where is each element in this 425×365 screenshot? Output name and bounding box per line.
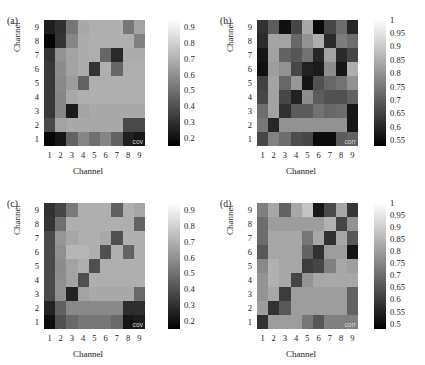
heatmap-cell xyxy=(100,90,111,104)
heatmap-cell xyxy=(78,20,89,34)
heatmap-cell xyxy=(89,34,100,48)
ytick-label: 5 xyxy=(240,261,252,271)
heatmap-cell xyxy=(257,245,268,259)
heatmap-cell xyxy=(302,315,313,329)
figure-heatmap-grid: (a) Channel cov 987654321 123456789 Chan… xyxy=(0,0,425,365)
heatmap-cell xyxy=(123,245,134,259)
heatmap-cell xyxy=(66,301,77,315)
heatmap-cell xyxy=(257,76,268,90)
xtick-label: 5 xyxy=(88,333,100,343)
heatmap-cell xyxy=(324,287,335,301)
xtick-label: 7 xyxy=(111,150,123,160)
heatmap-cell xyxy=(100,76,111,90)
xtick-label: 6 xyxy=(313,150,325,160)
heatmap-cell xyxy=(291,273,302,287)
heatmap-cell xyxy=(123,273,134,287)
ytick-label: 8 xyxy=(240,219,252,229)
ytick-label: 2 xyxy=(240,303,252,313)
heatmap-cell xyxy=(257,20,268,34)
heatmap-cell xyxy=(347,104,358,118)
heatmap-cell xyxy=(257,273,268,287)
heatmap-cell xyxy=(100,217,111,231)
heatmap-cell xyxy=(111,231,122,245)
heatmap-cell xyxy=(78,301,89,315)
heatmap-cell xyxy=(66,287,77,301)
heatmap-cell xyxy=(66,48,77,62)
heatmap-cell xyxy=(55,34,66,48)
heatmap-cell xyxy=(89,104,100,118)
heatmap-cell xyxy=(55,62,66,76)
heatmap-cell xyxy=(257,62,268,76)
heatmap-cell xyxy=(134,287,145,301)
colorbar-tick-label: 0.7 xyxy=(184,54,195,64)
panel-b-ylabel: Channel xyxy=(225,22,235,52)
heatmap-cell xyxy=(100,287,111,301)
ytick-label: 7 xyxy=(27,233,39,243)
heatmap-cell xyxy=(123,76,134,90)
heatmap-cell xyxy=(134,104,145,118)
heatmap-cell xyxy=(313,301,324,315)
heatmap-cell xyxy=(78,231,89,245)
colorbar-tick-label: 0.65 xyxy=(390,282,405,292)
heatmap-cell xyxy=(66,245,77,259)
colorbar-tick-label: 0.55 xyxy=(390,307,405,317)
heatmap-cell xyxy=(336,245,347,259)
heatmap-cell xyxy=(55,287,66,301)
heatmap-cell xyxy=(291,203,302,217)
heatmap-cell xyxy=(291,118,302,132)
heatmap-cell xyxy=(324,217,335,231)
heatmap-cell xyxy=(66,34,77,48)
heatmap-cell xyxy=(123,48,134,62)
heatmap-cell xyxy=(123,203,134,217)
heatmap-cell xyxy=(268,118,279,132)
colorbar-tick-label: 0.6 xyxy=(184,70,195,80)
heatmap-cell xyxy=(324,245,335,259)
heatmap-cell xyxy=(313,217,324,231)
heatmap-cell xyxy=(89,132,100,146)
heatmap-cell xyxy=(55,315,66,329)
heatmap-cell xyxy=(313,315,324,329)
heatmap-cell xyxy=(111,273,122,287)
heatmap-cell xyxy=(111,217,122,231)
xtick-label: 2 xyxy=(268,333,280,343)
heatmap-cell xyxy=(134,245,145,259)
ytick-label: 6 xyxy=(240,64,252,74)
heatmap-cell xyxy=(291,231,302,245)
heatmap-cell xyxy=(134,259,145,273)
heatmap-cell xyxy=(268,104,279,118)
heatmap-cell xyxy=(268,231,279,245)
heatmap-cell xyxy=(279,301,290,315)
panel-d-plot: corr xyxy=(257,203,358,329)
panel-b: (b) Channel corr 987654321 123456789 Cha… xyxy=(213,0,425,182)
xtick-label: 3 xyxy=(66,333,78,343)
ytick-label: 9 xyxy=(240,205,252,215)
colorbar-tick-label: 0.4 xyxy=(184,284,195,294)
heatmap-cell xyxy=(257,48,268,62)
heatmap-cell xyxy=(66,20,77,34)
heatmap-cell xyxy=(347,259,358,273)
heatmap-cell xyxy=(302,217,313,231)
ytick-label: 1 xyxy=(27,317,39,327)
colorbar-tick-label: 1 xyxy=(390,198,394,208)
xtick-label: 4 xyxy=(77,333,89,343)
heatmap-cell xyxy=(302,48,313,62)
heatmap-cell xyxy=(123,231,134,245)
heatmap-cell xyxy=(78,62,89,76)
heatmap-cell xyxy=(111,132,122,146)
panel-c-xlabel: Channel xyxy=(73,349,103,359)
heatmap-cell xyxy=(55,20,66,34)
ytick-label: 8 xyxy=(27,219,39,229)
colorbar-tick-label: 0.8 xyxy=(184,221,195,231)
heatmap-cell xyxy=(291,287,302,301)
heatmap-cell xyxy=(123,104,134,118)
heatmap-cell xyxy=(78,132,89,146)
heatmap-cell xyxy=(279,217,290,231)
colorbar-tick-label: 0.9 xyxy=(184,205,195,215)
heatmap-cell xyxy=(55,273,66,287)
heatmap-cell xyxy=(111,48,122,62)
heatmap-cell xyxy=(78,315,89,329)
heatmap-cell xyxy=(89,118,100,132)
xtick-label: 7 xyxy=(324,150,336,160)
heatmap-cell xyxy=(55,104,66,118)
panel-c-colorbar xyxy=(168,203,180,329)
